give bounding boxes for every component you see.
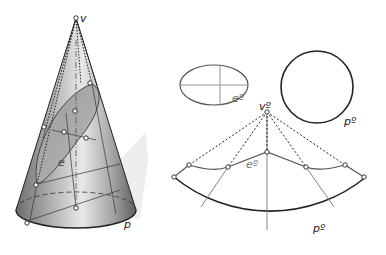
label-p-circle: pº: [343, 115, 357, 128]
label-e-true: eº: [232, 92, 245, 105]
label-v: v: [80, 12, 87, 25]
ellipse-true-shape: eº: [180, 65, 248, 105]
label-p: p: [123, 218, 131, 231]
cone-development: vº eº pº: [172, 100, 366, 235]
base-circle: pº: [281, 51, 357, 128]
label-p-dev: pº: [312, 222, 326, 235]
label-e: e: [58, 156, 65, 169]
diagram-canvas: v e p eº pº: [0, 0, 386, 255]
label-e-dev: eº: [246, 158, 259, 171]
label-v-dev: vº: [259, 100, 272, 113]
cone: v e p: [16, 12, 136, 231]
